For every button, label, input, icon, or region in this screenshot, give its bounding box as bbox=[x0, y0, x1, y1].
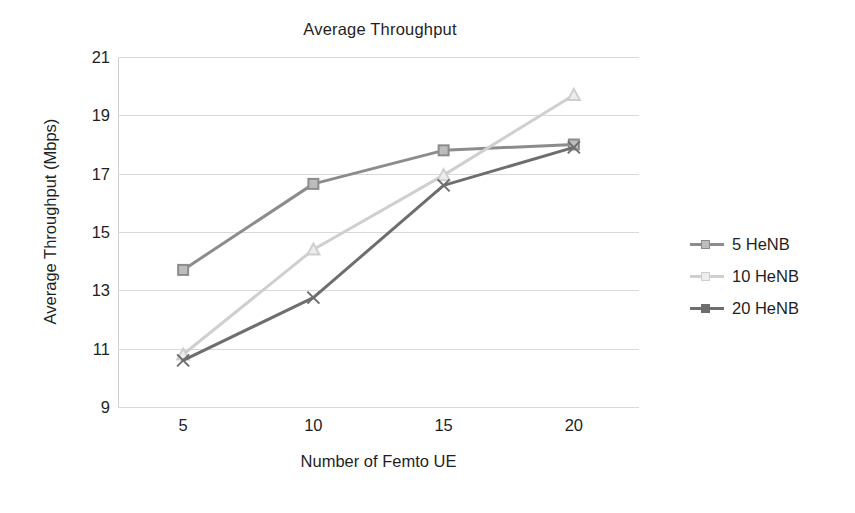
legend-item-label: 20 HeNB bbox=[732, 299, 799, 318]
chart-area: Average Throughput Average Throughput (M… bbox=[0, 0, 680, 490]
figure-container: Average Throughput Average Throughput (M… bbox=[0, 0, 855, 513]
x-tick-label: 20 bbox=[565, 416, 583, 435]
legend-item-5-henb[interactable]: 5 HeNB bbox=[690, 228, 850, 260]
legend-item-label: 5 HeNB bbox=[732, 235, 790, 254]
y-axis-tick-labels: 2119171513119 bbox=[58, 57, 110, 407]
y-tick-label: 19 bbox=[70, 106, 110, 125]
y-tick-label: 9 bbox=[70, 398, 110, 417]
y-tick-label: 11 bbox=[70, 339, 110, 358]
x-axis-tick-labels: 5101520 bbox=[118, 416, 639, 440]
data-point-marker bbox=[307, 244, 319, 255]
y-tick-label: 21 bbox=[70, 48, 110, 67]
x-tick-label: 10 bbox=[304, 416, 322, 435]
y-tick-label: 15 bbox=[70, 223, 110, 242]
legend-swatch-icon bbox=[690, 237, 724, 251]
chart-legend: 5 HeNB10 HeNB20 HeNB bbox=[690, 228, 850, 324]
y-tick-label: 13 bbox=[70, 281, 110, 300]
legend-item-20-henb[interactable]: 20 HeNB bbox=[690, 292, 850, 324]
data-point-marker bbox=[439, 145, 449, 155]
series-line bbox=[183, 147, 574, 360]
series-5-henb bbox=[178, 140, 579, 275]
y-axis-title: Average Throughput (Mbps) bbox=[41, 72, 60, 372]
data-point-marker bbox=[178, 265, 188, 275]
chart-title: Average Throughput bbox=[120, 20, 640, 39]
x-tick-label: 15 bbox=[434, 416, 452, 435]
series-10-henb bbox=[177, 89, 580, 360]
x-tick-label: 5 bbox=[179, 416, 188, 435]
plot-region bbox=[118, 57, 639, 407]
y-tick-label: 17 bbox=[70, 164, 110, 183]
data-point-marker bbox=[438, 169, 450, 180]
legend-swatch-icon bbox=[690, 269, 724, 283]
data-point-marker bbox=[568, 89, 580, 100]
data-point-marker bbox=[308, 179, 318, 189]
series-line bbox=[183, 95, 574, 355]
x-axis-title: Number of Femto UE bbox=[118, 452, 639, 471]
legend-item-10-henb[interactable]: 10 HeNB bbox=[690, 260, 850, 292]
series-20-henb bbox=[177, 141, 580, 366]
gridline bbox=[118, 407, 639, 408]
legend-swatch-icon bbox=[690, 301, 724, 315]
data-point-marker bbox=[307, 292, 319, 304]
legend-item-label: 10 HeNB bbox=[732, 267, 799, 286]
series-plot bbox=[118, 57, 639, 407]
